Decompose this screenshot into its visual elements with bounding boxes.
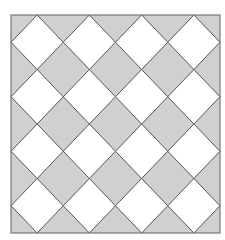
checkerboard-diagram bbox=[0, 0, 225, 240]
